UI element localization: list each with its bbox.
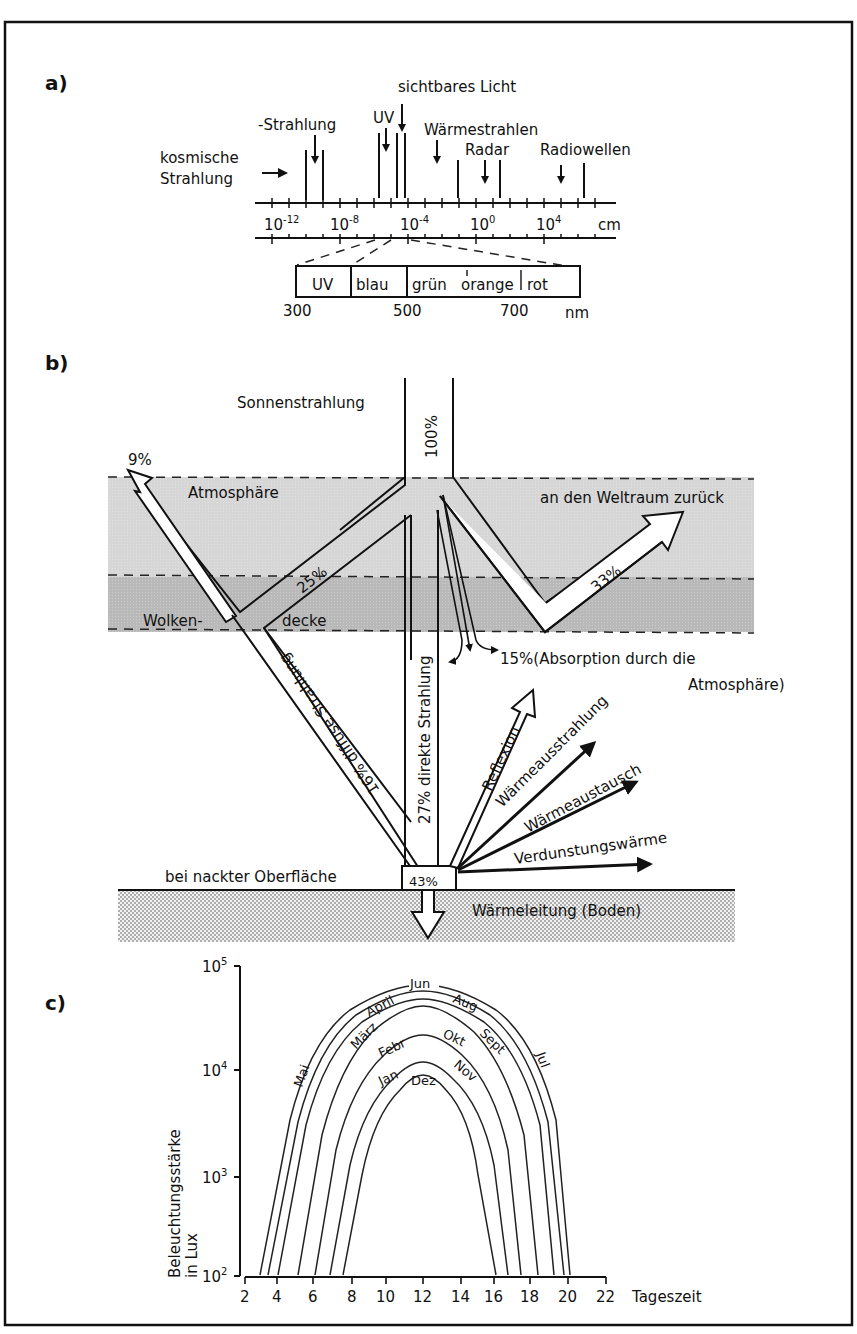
label-visible: sichtbares Licht <box>398 78 516 96</box>
label-heat: Wärmestrahlen <box>424 121 538 139</box>
label-cloud-1: Wolken- <box>143 612 203 630</box>
label-pct-9: 9% <box>128 451 152 469</box>
label-uv-top: UV <box>373 109 395 127</box>
zoom-lines <box>297 240 578 268</box>
curve-label-jun: Jun <box>409 976 430 991</box>
svg-text:10-8: 10-8 <box>330 214 359 234</box>
svg-text:16: 16 <box>484 1288 503 1306</box>
spectrum-tick-labels: 10-12 10-8 10-4 100 104 cm <box>264 214 621 234</box>
label-gamma: -Strahlung <box>258 116 336 134</box>
label-conduction: Wärmeleitung (Boden) <box>472 902 641 920</box>
svg-text:18: 18 <box>520 1288 539 1306</box>
label-atmosphere: Atmosphäre <box>188 484 279 502</box>
visible-spectrum-box: UV blau grün orange rot 300 500 700 nm <box>283 266 589 322</box>
svg-text:10-12: 10-12 <box>264 214 299 234</box>
svg-text:104: 104 <box>202 1060 227 1080</box>
curve-label-jul: Jul <box>533 1049 553 1070</box>
svg-text:8: 8 <box>347 1288 357 1306</box>
band-arrows <box>315 104 561 182</box>
curve-labels: Jun Mai Jul April Aug März Sept Febr Okt… <box>291 976 553 1089</box>
nm-tick-500: 500 <box>393 302 422 320</box>
label-diffuse: 16% diffuse Strahlung <box>275 650 383 798</box>
spectrum-axis-lower <box>255 234 616 244</box>
label-space-back: an den Weltraum zurück <box>540 489 724 507</box>
spectrum-axis-upper <box>255 198 616 208</box>
nm-tick-700: 700 <box>500 302 529 320</box>
label-sun-pct: 100% <box>423 415 441 458</box>
curve-jun <box>260 985 570 1275</box>
curve-label-febr: Febr <box>376 1035 409 1061</box>
svg-text:104: 104 <box>536 214 561 234</box>
segment-orange: orange <box>461 276 514 294</box>
y-axis-label-2: in Lux <box>183 1233 201 1278</box>
label-sun: Sonnenstrahlung <box>237 394 365 412</box>
label-absorption-2: Atmosphäre) <box>688 676 785 694</box>
curve-label-dez: Dez <box>411 1073 436 1088</box>
svg-text:10: 10 <box>376 1288 395 1306</box>
svg-text:6: 6 <box>308 1288 318 1306</box>
y-tick-labels: 105 104 103 102 <box>202 956 227 1286</box>
panel-c-illuminance-chart: c) 105 104 103 102 Beleuchtungsstärke in… <box>45 956 702 1306</box>
label-absorption-1: 15%(Absorption durch die <box>500 650 695 668</box>
svg-text:102: 102 <box>202 1266 227 1286</box>
svg-text:4: 4 <box>272 1288 282 1306</box>
illuminance-curves <box>260 985 570 1275</box>
segment-gruen: grün <box>412 276 447 294</box>
curve-label-april: April <box>363 992 396 1019</box>
panel-b-radiation-budget: b) Sonnenstrahlung 100% 33% an den Weltr… <box>45 351 785 942</box>
svg-text:2: 2 <box>240 1288 250 1306</box>
segment-blau: blau <box>356 276 388 294</box>
curve-label-jan: Jan <box>375 1067 400 1089</box>
x-axis-label: Tageszeit <box>631 1288 702 1306</box>
segment-rot: rot <box>527 276 548 294</box>
svg-text:20: 20 <box>558 1288 577 1306</box>
label-ground-pct: 43% <box>409 874 438 889</box>
spectrum-unit: cm <box>598 216 621 234</box>
nm-unit: nm <box>565 304 589 322</box>
panel-c-letter: c) <box>45 991 66 1015</box>
panel-a-spectrum: a) kosmische Strahlung -Strahlung UV sic… <box>45 71 631 322</box>
svg-text:12: 12 <box>413 1288 432 1306</box>
label-radio: Radiowellen <box>540 141 631 159</box>
label-evaporation: Verdunstungswärme <box>513 829 668 868</box>
evaporation-arrow-icon <box>458 864 650 872</box>
svg-text:14: 14 <box>451 1288 470 1306</box>
label-cosmic-1: kosmische <box>160 149 239 167</box>
panel-b-letter: b) <box>45 351 68 375</box>
figure: a) kosmische Strahlung -Strahlung UV sic… <box>0 0 857 1334</box>
panel-a-letter: a) <box>45 71 68 95</box>
x-tick-labels: 2 4 6 8 10 12 14 16 18 20 22 <box>240 1288 615 1306</box>
svg-text:105: 105 <box>202 956 227 976</box>
label-cosmic-2: Strahlung <box>160 170 233 188</box>
label-surface: bei nackter Oberfläche <box>165 868 337 886</box>
label-cloud-2: decke <box>282 612 326 630</box>
svg-text:100: 100 <box>470 214 495 234</box>
svg-text:22: 22 <box>596 1288 615 1306</box>
label-radar: Radar <box>465 141 510 159</box>
label-direct: 27% direkte Strahlung <box>416 656 434 824</box>
svg-text:10-4: 10-4 <box>400 214 429 234</box>
segment-uv: UV <box>312 276 334 294</box>
y-axis-label-1: Beleuchtungsstärke <box>166 1129 184 1278</box>
nm-tick-300: 300 <box>283 302 312 320</box>
curve-label-okt: Okt <box>441 1026 468 1049</box>
svg-text:103: 103 <box>202 1167 227 1187</box>
